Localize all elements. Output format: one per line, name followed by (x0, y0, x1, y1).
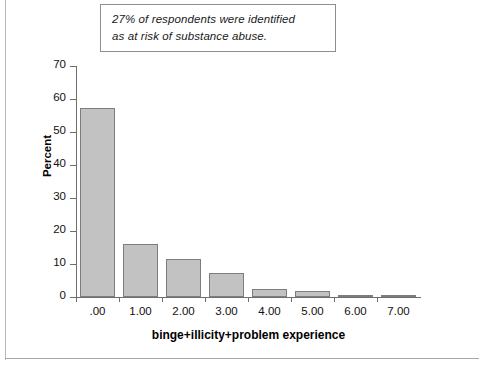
x-tick-label: 1.00 (129, 305, 151, 317)
x-tick (119, 297, 120, 302)
x-tick (205, 297, 206, 302)
x-axis-title: binge+illicity+problem experience (76, 328, 421, 342)
x-tick-label: 4.00 (258, 305, 280, 317)
y-tick (70, 66, 76, 67)
y-tick (70, 198, 76, 199)
x-tick (76, 297, 77, 302)
x-tick-label: 7.00 (387, 305, 409, 317)
x-tick (377, 297, 378, 302)
chart-page: 27% of respondents were identified as at… (0, 0, 481, 370)
x-tick-label: 2.00 (172, 305, 194, 317)
y-axis-title: Percent (41, 135, 53, 177)
x-tick (291, 297, 292, 302)
y-tick (70, 165, 76, 166)
bar (209, 273, 243, 297)
x-tick-label: 5.00 (301, 305, 323, 317)
x-tick (248, 297, 249, 302)
y-tick-label: 0 (40, 289, 66, 301)
y-tick (70, 264, 76, 265)
bar (252, 289, 286, 297)
y-tick-label: 30 (40, 190, 66, 202)
y-axis-line (76, 66, 77, 298)
y-tick-label: 70 (40, 58, 66, 70)
x-tick-label: .00 (90, 305, 106, 317)
bar (381, 295, 415, 297)
x-tick-label: 3.00 (215, 305, 237, 317)
x-tick (162, 297, 163, 302)
x-tick (334, 297, 335, 302)
y-tick (70, 99, 76, 100)
bar (166, 259, 200, 297)
bar-chart: 010203040506070 .001.002.003.004.005.006… (0, 0, 481, 370)
x-tick-label: 6.00 (344, 305, 366, 317)
y-tick (70, 132, 76, 133)
y-tick-label: 60 (40, 91, 66, 103)
bar (295, 291, 329, 297)
bar (338, 295, 372, 297)
bar (123, 244, 157, 297)
y-tick-label: 20 (40, 223, 66, 235)
y-tick (70, 231, 76, 232)
bar (80, 108, 114, 297)
y-tick-label: 10 (40, 256, 66, 268)
